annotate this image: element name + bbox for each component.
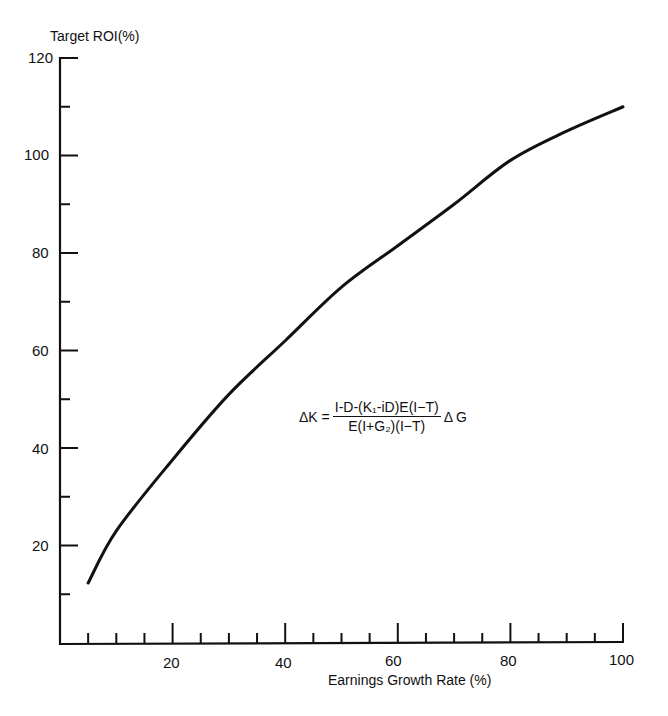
x-tick-label-60: 60 [385,652,402,669]
chart-canvas [0,0,668,716]
formula-rhs: Δ G [444,409,467,425]
formula-fraction: I-D-(K₁-iD)E(I−T) E(I+G₂)(I−T) [333,399,441,434]
y-tick-label-80: 80 [32,244,49,261]
x-tick-label-80: 80 [500,652,517,669]
roi-curve [88,107,623,583]
formula-numerator: I-D-(K₁-iD)E(I−T) [333,399,441,417]
formula-lhs: ΔK = [299,409,330,425]
y-tick-label-40: 40 [32,440,49,457]
x-tick-label-20: 20 [163,654,180,671]
x-tick-label-100: 100 [609,651,634,668]
y-tick-label-60: 60 [32,342,49,359]
formula-denominator: E(I+G₂)(I−T) [348,417,425,434]
y-axis-title: Target ROI(%) [50,28,139,44]
x-axis-title: Earnings Growth Rate (%) [328,672,491,688]
x-tick-label-40: 40 [275,654,292,671]
delta-k-formula: ΔK = I-D-(K₁-iD)E(I−T) E(I+G₂)(I−T) Δ G [299,399,467,434]
y-tick-label-20: 20 [32,537,49,554]
y-tick-label-120: 120 [28,49,53,66]
y-tick-label-100: 100 [24,146,49,163]
